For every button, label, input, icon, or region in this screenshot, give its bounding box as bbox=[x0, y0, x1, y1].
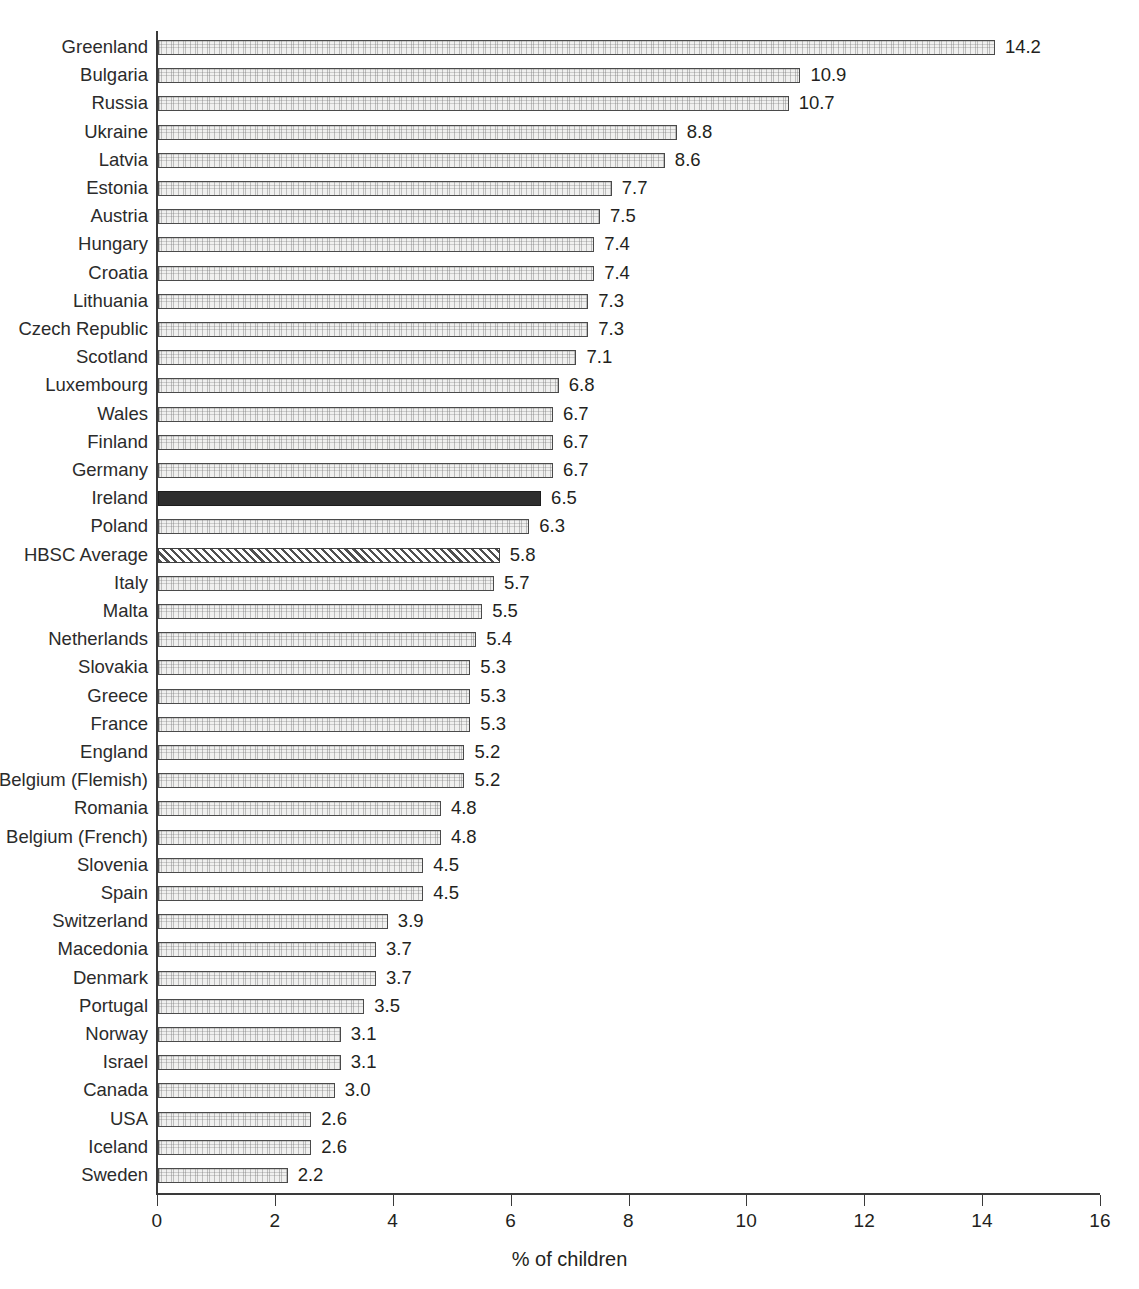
x-tick-mark bbox=[157, 1195, 158, 1206]
bar[interactable] bbox=[158, 209, 600, 224]
bar[interactable] bbox=[158, 40, 995, 55]
bar[interactable] bbox=[158, 1055, 341, 1070]
bar[interactable] bbox=[158, 801, 441, 816]
bar-row[interactable]: Finland6.7 bbox=[0, 428, 1139, 456]
category-label: Netherlands bbox=[48, 625, 148, 653]
category-label: Portugal bbox=[79, 992, 148, 1020]
bar-row[interactable]: Spain4.5 bbox=[0, 879, 1139, 907]
category-label: Romania bbox=[74, 794, 148, 822]
bar[interactable] bbox=[158, 999, 364, 1014]
category-label: Canada bbox=[83, 1076, 148, 1104]
bar[interactable] bbox=[158, 971, 376, 986]
bar-row[interactable]: Switzerland3.9 bbox=[0, 907, 1139, 935]
bar-row[interactable]: Hungary7.4 bbox=[0, 230, 1139, 258]
bar-row[interactable]: France5.3 bbox=[0, 710, 1139, 738]
bar[interactable] bbox=[158, 773, 464, 788]
bar-row[interactable]: Netherlands5.4 bbox=[0, 625, 1139, 653]
bar-row[interactable]: Slovakia5.3 bbox=[0, 653, 1139, 681]
bar[interactable] bbox=[158, 96, 789, 111]
bar-row[interactable]: Romania4.8 bbox=[0, 794, 1139, 822]
bar-row[interactable]: USA2.6 bbox=[0, 1105, 1139, 1133]
bar-row[interactable]: Poland6.3 bbox=[0, 512, 1139, 540]
bar[interactable] bbox=[158, 1027, 341, 1042]
bar[interactable] bbox=[158, 830, 441, 845]
bar-row[interactable]: Iceland2.6 bbox=[0, 1133, 1139, 1161]
bar-row[interactable]: Sweden2.2 bbox=[0, 1161, 1139, 1189]
bar[interactable] bbox=[158, 942, 376, 957]
bar[interactable] bbox=[158, 125, 677, 140]
bar[interactable] bbox=[158, 435, 553, 450]
bar-row[interactable]: Belgium (French)4.8 bbox=[0, 823, 1139, 851]
value-label: 4.8 bbox=[451, 823, 477, 851]
bar-row[interactable]: Greece5.3 bbox=[0, 682, 1139, 710]
bar[interactable] bbox=[158, 1168, 288, 1183]
bar[interactable] bbox=[158, 858, 423, 873]
bar-row[interactable]: Canada3.0 bbox=[0, 1076, 1139, 1104]
category-label: Macedonia bbox=[57, 935, 148, 963]
bar-row[interactable]: Lithuania7.3 bbox=[0, 287, 1139, 315]
bar[interactable] bbox=[158, 689, 470, 704]
category-label: Wales bbox=[97, 400, 148, 428]
value-label: 7.7 bbox=[622, 174, 648, 202]
bar[interactable] bbox=[158, 237, 594, 252]
bar[interactable] bbox=[158, 914, 388, 929]
bar-row[interactable]: Croatia7.4 bbox=[0, 259, 1139, 287]
category-label: Switzerland bbox=[52, 907, 148, 935]
x-tick-mark bbox=[629, 1195, 630, 1206]
bar[interactable] bbox=[158, 153, 665, 168]
bar[interactable] bbox=[158, 745, 464, 760]
bar[interactable] bbox=[158, 886, 423, 901]
bar-row[interactable]: Italy5.7 bbox=[0, 569, 1139, 597]
bar-row[interactable]: Russia10.7 bbox=[0, 89, 1139, 117]
bar-row[interactable]: Czech Republic7.3 bbox=[0, 315, 1139, 343]
bar-row[interactable]: Latvia8.6 bbox=[0, 146, 1139, 174]
category-label: Spain bbox=[101, 879, 148, 907]
bar[interactable] bbox=[158, 181, 612, 196]
bar[interactable] bbox=[158, 576, 494, 591]
category-label: Ukraine bbox=[84, 118, 148, 146]
bar[interactable] bbox=[158, 717, 470, 732]
bar-row[interactable]: Denmark3.7 bbox=[0, 964, 1139, 992]
bar-row[interactable]: Greenland14.2 bbox=[0, 33, 1139, 61]
bar[interactable] bbox=[158, 548, 500, 563]
bar-row[interactable]: Ukraine8.8 bbox=[0, 118, 1139, 146]
bar[interactable] bbox=[158, 322, 588, 337]
bar[interactable] bbox=[158, 632, 476, 647]
bar-row[interactable]: Malta5.5 bbox=[0, 597, 1139, 625]
bar-row[interactable]: Austria7.5 bbox=[0, 202, 1139, 230]
bar-row[interactable]: Belgium (Flemish)5.2 bbox=[0, 766, 1139, 794]
bar-row[interactable]: Portugal3.5 bbox=[0, 992, 1139, 1020]
bar-row[interactable]: Israel3.1 bbox=[0, 1048, 1139, 1076]
bar-row[interactable]: Estonia7.7 bbox=[0, 174, 1139, 202]
bar[interactable] bbox=[158, 294, 588, 309]
bar-row[interactable]: Wales6.7 bbox=[0, 400, 1139, 428]
value-label: 5.3 bbox=[480, 710, 506, 738]
bar[interactable] bbox=[158, 68, 800, 83]
bar[interactable] bbox=[158, 519, 529, 534]
bar-row[interactable]: HBSC Average5.8 bbox=[0, 541, 1139, 569]
bar[interactable] bbox=[158, 1083, 335, 1098]
bar-row[interactable]: Macedonia3.7 bbox=[0, 935, 1139, 963]
bar-row[interactable]: Scotland7.1 bbox=[0, 343, 1139, 371]
bar[interactable] bbox=[158, 1112, 311, 1127]
bar[interactable] bbox=[158, 378, 559, 393]
bar-row[interactable]: Ireland6.5 bbox=[0, 484, 1139, 512]
bar[interactable] bbox=[158, 266, 594, 281]
bar-row[interactable]: Slovenia4.5 bbox=[0, 851, 1139, 879]
bar[interactable] bbox=[158, 463, 553, 478]
bar[interactable] bbox=[158, 491, 541, 506]
category-label: Scotland bbox=[76, 343, 148, 371]
bar[interactable] bbox=[158, 407, 553, 422]
bar[interactable] bbox=[158, 604, 482, 619]
bar[interactable] bbox=[158, 660, 470, 675]
bar[interactable] bbox=[158, 1140, 311, 1155]
value-label: 3.5 bbox=[374, 992, 400, 1020]
bar-row[interactable]: Germany6.7 bbox=[0, 456, 1139, 484]
value-label: 3.7 bbox=[386, 935, 412, 963]
bar-row[interactable]: Luxembourg6.8 bbox=[0, 371, 1139, 399]
bar-row[interactable]: Norway3.1 bbox=[0, 1020, 1139, 1048]
bar-row[interactable]: England5.2 bbox=[0, 738, 1139, 766]
bar-row[interactable]: Bulgaria10.9 bbox=[0, 61, 1139, 89]
bar[interactable] bbox=[158, 350, 576, 365]
value-label: 2.2 bbox=[298, 1161, 324, 1189]
